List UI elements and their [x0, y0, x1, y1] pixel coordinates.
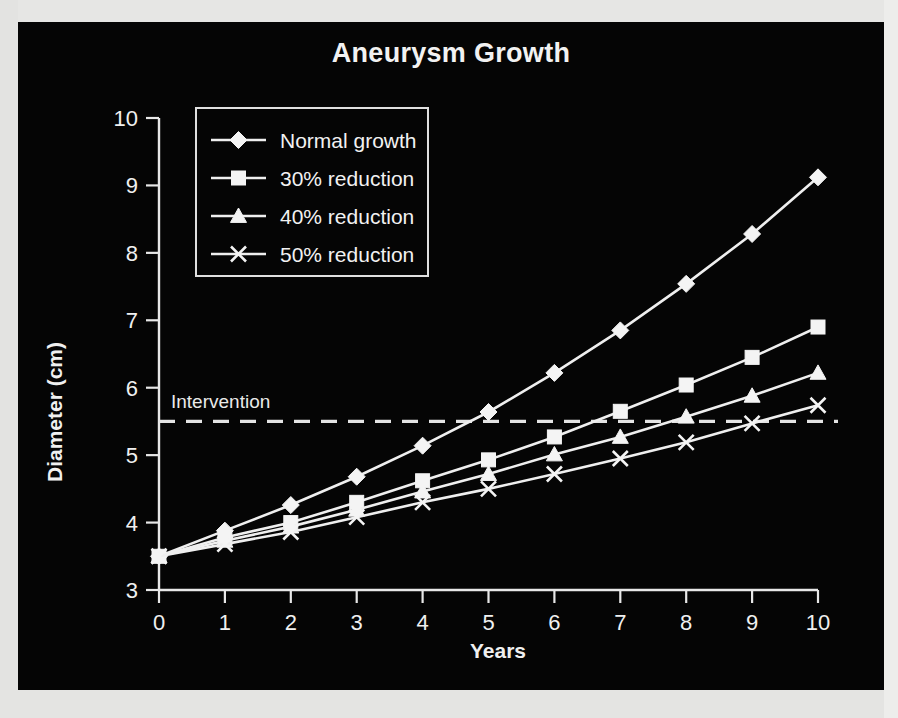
- x-tick-label: 0: [153, 610, 165, 635]
- chart-figure: Aneurysm Growth Diameter (cm) Years 3456…: [18, 22, 884, 690]
- marker-square: [679, 378, 693, 392]
- marker-diamond: [230, 132, 247, 149]
- marker-diamond: [414, 437, 431, 454]
- legend-label: 40% reduction: [280, 205, 414, 228]
- y-tick-label: 3: [126, 578, 138, 603]
- page-top-margin: [0, 0, 898, 22]
- line-chart-plot: Diameter (cm) Years 345678910 0123456789…: [18, 22, 884, 690]
- legend-label: 50% reduction: [280, 243, 414, 266]
- legend-label: Normal growth: [280, 129, 417, 152]
- y-tick-label: 4: [126, 511, 138, 536]
- y-tick-label: 10: [114, 106, 138, 131]
- legend-label: 30% reduction: [280, 167, 414, 190]
- y-tick-label: 8: [126, 241, 138, 266]
- scanned-page: Aneurysm Growth Diameter (cm) Years 3456…: [0, 0, 898, 718]
- x-tick-label: 8: [680, 610, 692, 635]
- intervention-label: Intervention: [171, 391, 270, 412]
- page-right-margin: [884, 0, 898, 718]
- marker-square: [232, 171, 246, 185]
- marker-square: [547, 430, 561, 444]
- series-30-reduction: [152, 320, 825, 563]
- y-axis-label: Diameter (cm): [43, 342, 66, 482]
- y-axis-ticks: 345678910: [114, 106, 159, 603]
- x-axis-ticks: 012345678910: [153, 590, 830, 635]
- x-tick-label: 2: [285, 610, 297, 635]
- x-axis-label: Years: [470, 639, 526, 662]
- series-polyline: [159, 177, 818, 556]
- y-tick-label: 5: [126, 443, 138, 468]
- data-series-group: [151, 169, 827, 565]
- y-tick-label: 7: [126, 308, 138, 333]
- marker-square: [745, 350, 759, 364]
- x-tick-label: 4: [416, 610, 428, 635]
- x-tick-label: 3: [351, 610, 363, 635]
- y-tick-label: 6: [126, 376, 138, 401]
- series-polyline: [159, 327, 818, 556]
- x-tick-label: 10: [806, 610, 830, 635]
- marker-diamond: [612, 322, 629, 339]
- marker-triangle: [810, 365, 826, 379]
- series-normal-growth: [151, 169, 827, 565]
- marker-square: [482, 453, 496, 467]
- legend-entry: 30% reduction: [211, 167, 414, 190]
- marker-square: [613, 404, 627, 418]
- page-bottom-margin: [0, 690, 898, 718]
- y-tick-label: 9: [126, 173, 138, 198]
- marker-diamond: [480, 403, 497, 420]
- x-tick-label: 9: [746, 610, 758, 635]
- marker-diamond: [282, 497, 299, 514]
- legend-entry: 50% reduction: [211, 243, 414, 266]
- x-tick-label: 7: [614, 610, 626, 635]
- legend-entry: Normal growth: [211, 129, 417, 152]
- marker-x: [745, 416, 760, 431]
- page-left-margin: [0, 0, 18, 718]
- marker-diamond: [546, 364, 563, 381]
- marker-square: [811, 320, 825, 334]
- marker-x: [811, 398, 826, 413]
- x-tick-label: 6: [548, 610, 560, 635]
- marker-diamond: [348, 468, 365, 485]
- x-tick-label: 1: [219, 610, 231, 635]
- x-tick-label: 5: [482, 610, 494, 635]
- legend-entry: 40% reduction: [211, 205, 414, 228]
- chart-legend: Normal growth30% reduction40% reduction5…: [196, 108, 428, 276]
